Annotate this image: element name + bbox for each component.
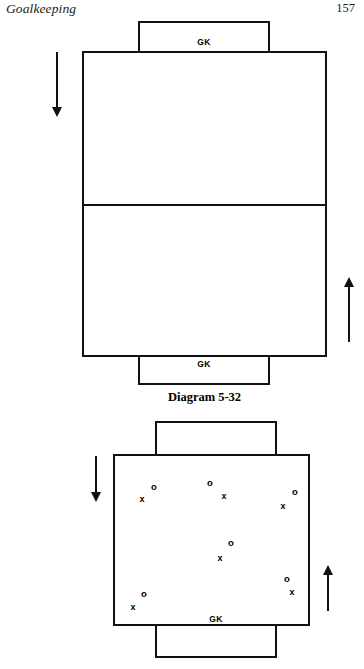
arrow-shaft: [95, 456, 97, 493]
player-marker-o: o: [207, 478, 213, 488]
right-up-arrow-icon: [322, 565, 334, 611]
page-number: 157: [336, 1, 355, 16]
arrow-shaft: [56, 52, 58, 108]
arrow-head: [323, 565, 333, 575]
left-down-arrow-icon: [51, 52, 63, 117]
arrow-shaft: [348, 286, 350, 342]
top-goal-label: GK: [138, 38, 270, 47]
player-marker-o: o: [284, 574, 290, 584]
player-marker-x: x: [280, 502, 285, 511]
bottom-goal-box: [155, 626, 277, 658]
arrow-head: [52, 107, 62, 117]
bottom-goal-label: GK: [155, 615, 277, 624]
player-marker-o: o: [228, 538, 234, 548]
player-marker-x: x: [217, 554, 222, 563]
player-marker-o: o: [292, 487, 298, 497]
player-marker-o: o: [151, 482, 157, 492]
player-marker-o: o: [141, 589, 147, 599]
top-goal-box: [155, 421, 277, 454]
player-marker-x: x: [139, 495, 144, 504]
bottom-goal-label: GK: [138, 360, 270, 369]
arrow-head: [91, 492, 101, 502]
figure-caption: Diagram 5-32: [82, 390, 327, 405]
player-marker-x: x: [221, 492, 226, 501]
player-marker-x: x: [130, 603, 135, 612]
right-up-arrow-icon: [343, 277, 355, 342]
page: Goalkeeping 157 GK GK Diagram 5-32 GK: [0, 0, 364, 669]
field-midline: [82, 204, 327, 206]
left-down-arrow-icon: [90, 456, 102, 502]
arrow-head: [344, 277, 354, 287]
arrow-shaft: [327, 574, 329, 611]
player-marker-x: x: [289, 588, 294, 597]
running-head: Goalkeeping: [6, 1, 76, 17]
